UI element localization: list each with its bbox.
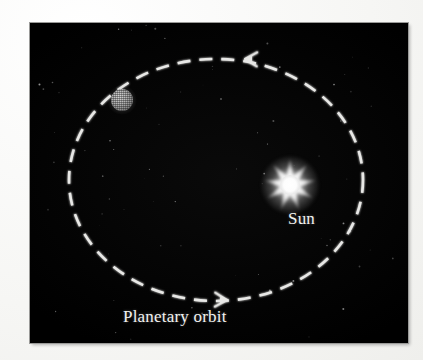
sky-panel: Sun Planetary orbit xyxy=(30,23,408,343)
figure-root: Sun Planetary orbit xyxy=(0,0,423,360)
planetary-orbit-label: Planetary orbit xyxy=(123,307,227,327)
sun-label: Sun xyxy=(288,209,315,229)
label-layer: Sun Planetary orbit xyxy=(30,23,408,343)
